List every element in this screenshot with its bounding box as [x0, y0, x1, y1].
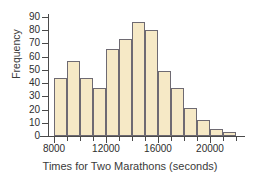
x-minor-tick-mark [145, 137, 146, 141]
x-minor-tick-mark [93, 137, 94, 141]
x-tick-label: 12000 [86, 143, 126, 154]
x-minor-tick-mark [171, 137, 172, 141]
y-tick-label: 70 [14, 39, 40, 47]
histogram-chart: Frequency 0102030405060708090 8000120001… [0, 0, 260, 181]
x-axis-line [40, 136, 245, 137]
histogram-bar [106, 49, 119, 136]
histogram-bar [54, 78, 67, 136]
x-axis-title: Times for Two Marathons (seconds) [0, 160, 260, 172]
histogram-bar [223, 132, 236, 136]
x-minor-tick-mark [223, 137, 224, 141]
y-tick-label: 20 [14, 106, 40, 114]
histogram-bar [132, 22, 145, 136]
x-tick-label: 20000 [190, 143, 230, 154]
x-minor-tick-mark [236, 137, 237, 141]
histogram-bar [197, 120, 210, 136]
x-minor-tick-mark [67, 137, 68, 141]
x-minor-tick-mark [132, 137, 133, 141]
y-tick-mark [42, 136, 48, 137]
y-tick-label: 60 [14, 53, 40, 61]
histogram-bar [171, 88, 184, 136]
y-tick-label: 90 [14, 13, 40, 21]
y-tick-label: 80 [14, 26, 40, 34]
histogram-bar [184, 108, 197, 136]
x-minor-tick-mark [119, 137, 120, 141]
histogram-bar [210, 129, 223, 136]
y-tick-label: 10 [14, 119, 40, 127]
x-minor-tick-mark [197, 137, 198, 141]
y-tick-label: 30 [14, 92, 40, 100]
x-tick-label: 8000 [34, 143, 74, 154]
histogram-bar [93, 88, 106, 136]
y-tick-label: 50 [14, 66, 40, 74]
histogram-bar [119, 39, 132, 136]
y-tick-label: 0 [14, 132, 40, 140]
histogram-bar [67, 61, 80, 136]
x-tick-label: 16000 [138, 143, 178, 154]
x-minor-tick-mark [184, 137, 185, 141]
histogram-bars [48, 10, 236, 136]
histogram-bar [145, 30, 158, 136]
histogram-bar [80, 78, 93, 136]
y-tick-label: 40 [14, 79, 40, 87]
histogram-bar [158, 71, 171, 136]
x-minor-tick-mark [80, 137, 81, 141]
